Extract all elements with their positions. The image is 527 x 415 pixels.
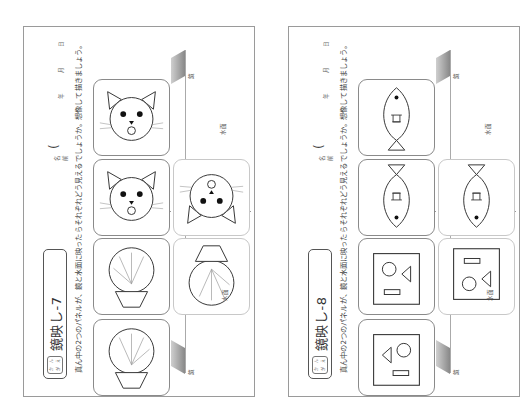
- date-day: 日: [57, 41, 65, 47]
- date-year: 年: [57, 93, 65, 99]
- shell-icon: [94, 320, 169, 395]
- panel-water-shell[interactable]: [173, 238, 250, 315]
- label-water: 水面: [221, 289, 229, 301]
- fish-icon: [359, 160, 434, 235]
- shapes-square-icon: [359, 239, 434, 314]
- title-box: か ん が え 鏡映し-7: [43, 249, 67, 379]
- date-day: 日: [322, 41, 330, 47]
- cat-face-icon: [94, 80, 169, 155]
- panel-center-shell[interactable]: [93, 238, 170, 315]
- shapes-square-icon: [359, 320, 434, 395]
- label-mirror: 鏡: [187, 369, 195, 375]
- panel-mirror-shell[interactable]: [93, 319, 170, 396]
- shapes-square-icon: [439, 239, 514, 314]
- panel-mirror-fish[interactable]: [358, 79, 435, 156]
- shell-icon: [174, 239, 249, 314]
- label-water: 水面: [486, 289, 494, 301]
- grade-badge: か ん が え: [47, 356, 63, 374]
- panel-center-fish[interactable]: [358, 159, 435, 236]
- fish-icon: [359, 80, 434, 155]
- grade-badge: か ん が え: [312, 356, 328, 374]
- worksheet-8: か ん が え 鏡映し-8 真ん中の2つのパネルが、鏡と水面に映ったらそれぞれど…: [288, 26, 520, 397]
- instructions: 真ん中の2つのパネルが、鏡と水面に映ったらそれぞれどう見えるでしょうか。想像して…: [73, 42, 83, 373]
- name-label: 名前: [318, 155, 334, 161]
- shell-icon: [94, 239, 169, 314]
- fish-icon: [439, 160, 514, 235]
- label-mirror: 鏡: [452, 73, 460, 79]
- panel-mirror-cat[interactable]: [93, 79, 170, 156]
- cat-face-icon: [174, 160, 249, 235]
- panel-water-cat[interactable]: [173, 159, 250, 236]
- name-field[interactable]: (: [312, 144, 326, 149]
- worksheet-7: か ん が え 鏡映し-7 真ん中の2つのパネルが、鏡と水面に映ったらそれぞれど…: [23, 26, 255, 397]
- instructions: 真ん中の2つのパネルが、鏡と水面に映ったらそれぞれどう見えるでしょうか。想像して…: [338, 42, 348, 373]
- label-water: 水面: [219, 123, 227, 135]
- panel-center-shapes[interactable]: [358, 238, 435, 315]
- worksheet-7-content: か ん が え 鏡映し-7 真ん中の2つのパネルが、鏡と水面に映ったらそれぞれど…: [23, 26, 255, 397]
- name-field[interactable]: (: [47, 144, 61, 149]
- panel-water-shapes[interactable]: [438, 238, 515, 315]
- page-title: 鏡映し-7: [46, 297, 65, 351]
- panel-mirror-shapes[interactable]: [358, 319, 435, 396]
- cat-face-icon: [94, 160, 169, 235]
- label-mirror: 鏡: [187, 73, 195, 79]
- date-month: 月: [57, 67, 65, 73]
- label-mirror: 鏡: [452, 369, 460, 375]
- date-year: 年: [322, 93, 330, 99]
- panel-water-fish[interactable]: [438, 159, 515, 236]
- worksheet-8-content: か ん が え 鏡映し-8 真ん中の2つのパネルが、鏡と水面に映ったらそれぞれど…: [288, 26, 520, 397]
- page-title: 鏡映し-8: [311, 297, 330, 351]
- label-water: 水面: [484, 123, 492, 135]
- date-month: 月: [322, 67, 330, 73]
- panel-center-cat[interactable]: [93, 159, 170, 236]
- name-label: 名前: [53, 155, 69, 161]
- title-box: か ん が え 鏡映し-8: [308, 249, 332, 379]
